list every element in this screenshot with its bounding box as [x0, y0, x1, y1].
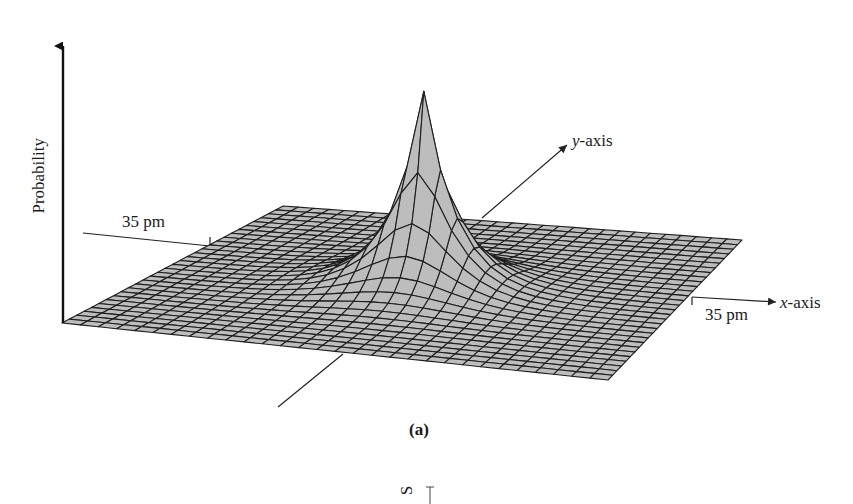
probability-axis-label: Probability — [30, 138, 47, 214]
x-axis-suffix: -axis — [788, 293, 821, 312]
figure-caption: (a) — [409, 421, 429, 438]
x-axis-arrow-icon — [692, 297, 776, 302]
y-axis-back-left-line — [83, 233, 210, 246]
next-panel-partial-label: S — [398, 486, 415, 495]
x-axis-variable: x — [780, 293, 788, 312]
y-axis-variable: y — [572, 131, 580, 150]
x-axis-label: x-axis — [780, 294, 821, 311]
probability-surface-figure: Probability 35 pm y-axis x-axis 35 pm (a… — [0, 0, 853, 504]
y-scale-label: 35 pm — [122, 213, 165, 230]
probability-surface-mesh — [62, 91, 742, 380]
y-axis-suffix: -axis — [580, 131, 613, 150]
y-axis-front-line — [278, 354, 343, 407]
y-axis-arrow-icon — [482, 145, 567, 218]
x-scale-label: 35 pm — [705, 306, 748, 323]
y-axis-label: y-axis — [572, 132, 613, 149]
